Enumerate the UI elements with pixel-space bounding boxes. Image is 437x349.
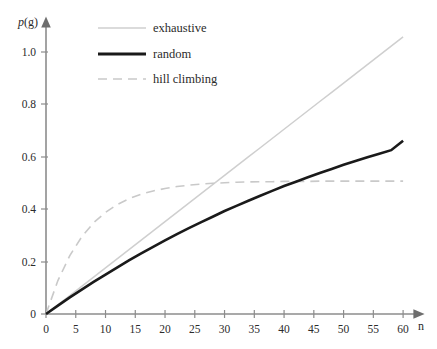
x-tick-label: 40: [278, 323, 290, 335]
chart-figure: 1.0 0.8 0.6 0.4 0.2 0 p(g) 0510152025303…: [0, 0, 437, 349]
x-tick-label: 45: [308, 323, 320, 335]
x-tick-label: 10: [100, 323, 112, 335]
x-tick-label: 55: [368, 323, 380, 335]
legend-label-exhaustive: exhaustive: [153, 21, 207, 35]
x-axis-tick-labels: 051015202530354045505560: [43, 323, 409, 335]
x-tick-label: 0: [43, 323, 49, 335]
x-axis-title: n: [418, 319, 424, 333]
x-tick-label: 20: [159, 323, 171, 335]
x-tick-label: 50: [338, 323, 350, 335]
y-axis-title: p(g): [17, 15, 38, 29]
y-tick-label: 0.6: [22, 151, 37, 163]
x-tick-label: 35: [249, 323, 261, 335]
chart-legend: exhaustive random hill climbing: [98, 21, 218, 86]
x-tick-label: 15: [130, 323, 142, 335]
x-tick-label: 5: [73, 323, 79, 335]
legend-label-random: random: [153, 47, 191, 61]
y-tick-label: 0.4: [22, 203, 37, 215]
y-tick-label: 0.2: [22, 256, 37, 268]
series-line-hill-climbing: [46, 181, 403, 314]
x-tick-label: 30: [219, 323, 231, 335]
legend-label-hill-climbing: hill climbing: [153, 72, 218, 86]
y-tick-label: 1.0: [22, 46, 37, 58]
x-axis: 051015202530354045505560 n: [43, 310, 424, 335]
x-tick-label: 25: [189, 323, 201, 335]
y-axis-tick-labels: 1.0 0.8 0.6 0.4 0.2 0: [22, 46, 37, 320]
chart-canvas: 1.0 0.8 0.6 0.4 0.2 0 p(g) 0510152025303…: [0, 0, 437, 349]
y-axis: 1.0 0.8 0.6 0.4 0.2 0 p(g): [17, 15, 48, 320]
x-tick-label: 60: [397, 323, 409, 335]
series-line-random: [46, 141, 403, 314]
y-axis-ticks: [41, 52, 48, 314]
y-tick-label: 0: [30, 308, 36, 320]
y-tick-label: 0.8: [22, 98, 37, 110]
